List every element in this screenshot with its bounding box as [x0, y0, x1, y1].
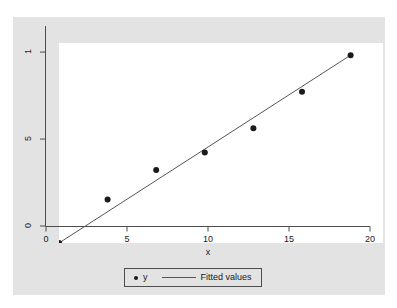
- chart-legend: y Fitted values: [124, 268, 262, 287]
- legend-label-y: y: [143, 273, 148, 282]
- graph-region: 051 05101520 x: [13, 17, 385, 295]
- dot-marker-icon: [134, 276, 138, 280]
- y-tick-label: 0: [24, 219, 33, 233]
- x-tick-label: 5: [117, 235, 137, 244]
- x-tick-label: 15: [279, 235, 299, 244]
- x-tick-marks: [46, 227, 370, 232]
- y-tick-label: 5: [24, 132, 33, 146]
- y-tick-label: 1: [24, 45, 33, 59]
- legend-label-fitted-values: Fitted values: [201, 273, 252, 282]
- x-tick-label: 20: [360, 235, 380, 244]
- y-tick-marks: [40, 52, 46, 226]
- legend-entry-fitted-values: Fitted values: [162, 273, 252, 282]
- x-tick-label: 10: [198, 235, 218, 244]
- x-tick-label: 0: [36, 235, 56, 244]
- x-axis-title: x: [46, 248, 370, 257]
- legend-entry-y: y: [134, 273, 148, 282]
- line-marker-icon: [162, 277, 196, 278]
- chart-screenshot: 051 05101520 x y Fitted values: [0, 0, 397, 308]
